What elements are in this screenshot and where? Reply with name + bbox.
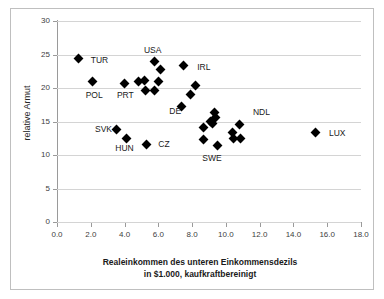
x-axis-tick [293,223,294,227]
x-axis-tick [57,223,58,227]
y-axis-tick [53,21,57,22]
y-axis-tick-label: 0 [24,218,50,226]
data-point-marker [156,64,166,74]
x-axis-tick-label: 8.0 [177,230,207,239]
y-axis-tick-label: 10 [24,151,50,159]
data-point-marker [235,133,245,143]
x-axis-tick-label: 6.0 [143,230,173,239]
y-axis-tick [53,122,57,123]
data-point-label: DE [169,107,181,116]
gridline-y [57,88,361,89]
y-axis-tick-label: 20 [24,84,50,92]
data-point-label: SVK [95,125,112,134]
y-axis-tick-label: 25 [24,51,50,59]
data-point-marker [120,78,130,88]
x-axis-tick-label: 0.0 [42,230,72,239]
x-axis-tick-label: 14.0 [278,230,308,239]
data-point-label: PRT [117,91,134,100]
y-axis-tick [53,189,57,190]
y-axis-tick [53,55,57,56]
x-axis-tick-label: 4.0 [110,230,140,239]
y-axis-tick-label: 5 [24,185,50,193]
x-axis-tick [361,223,362,227]
y-axis-tick [53,88,57,89]
x-axis-tick-label: 10.0 [211,230,241,239]
x-axis-tick [158,223,159,227]
data-point-marker [149,56,159,66]
plot-area: TURPOLPRTUSAIRLDESVKHUNCZSWENDLLUX [57,21,361,222]
data-point-label: TUR [91,56,108,65]
x-axis-tick [226,223,227,227]
y-axis-tick [53,155,57,156]
data-point-marker [310,127,320,137]
data-point-marker [140,76,150,86]
x-axis-tick-label: 12.0 [245,230,275,239]
y-axis-tick-label: 30 [24,17,50,25]
data-point-marker [185,89,195,99]
data-point-label: USA [144,46,161,55]
data-point-label: SWE [202,154,221,163]
data-point-label: NDL [253,108,270,117]
y-axis-tick-label: 15 [24,118,50,126]
x-axis-tick-label: 16.0 [312,230,342,239]
x-axis-tick [125,223,126,227]
data-point-marker [142,140,152,150]
data-point-label: HUN [115,144,133,153]
x-axis-tick [327,223,328,227]
x-axis-tick [192,223,193,227]
x-axis-title-line1: Realeinkommen des unteren Einkommensdezi… [40,256,360,268]
gridline-y [57,222,361,223]
x-axis-title-line2: in $1.000, kaufkraftbereinigt [40,268,360,280]
y-axis-tick-labels: 051015202530 [22,0,50,299]
x-axis-tick [91,223,92,227]
gridline-y [57,21,361,22]
data-point-marker [88,77,98,87]
gridline-y [57,189,361,190]
data-point-marker [212,141,222,151]
data-point-marker [111,125,121,135]
data-point-marker [199,135,209,145]
data-point-label: LUX [329,129,346,138]
x-axis-title: Realeinkommen des unteren Einkommensdezi… [40,256,360,280]
data-point-label: IRL [197,63,210,72]
chart-figure: relative Armut 051015202530 TURPOLPRTUSA… [0,0,384,299]
data-point-marker [198,123,208,133]
data-point-marker [179,60,189,70]
data-point-label: POL [86,91,103,100]
x-axis-tick [260,223,261,227]
x-axis-tick-label: 2.0 [76,230,106,239]
data-point-label: CZ [158,140,169,149]
x-axis-tick-label: 18.0 [346,230,376,239]
